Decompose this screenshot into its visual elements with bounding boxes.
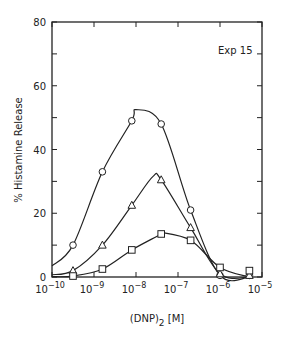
triangle-marker [187,224,195,231]
x-tick-label: 10−8 [122,281,147,295]
x-tick-label: 10−5 [248,281,273,295]
experiment-annotation: Exp 15 [218,45,253,56]
circle-marker [158,121,165,128]
plot-frame [52,22,262,277]
x-tick-label: 10−9 [80,281,105,295]
circle-marker [187,207,194,214]
square-marker [70,273,77,280]
histamine-release-chart: 020406080 10−1010−910−810−710−610−5 Exp … [0,0,288,344]
x-axis: 10−1010−910−810−710−610−5 [35,22,272,295]
circles-curve [52,110,249,281]
square-marker [99,266,106,273]
y-tick-label: 80 [33,17,46,28]
circle-marker [129,118,136,125]
y-tick-label: 60 [33,81,46,92]
x-axis-title: (DNP)2 [M] [130,313,184,328]
square-marker [129,247,136,254]
y-axis: 020406080 [33,17,262,283]
y-axis-title: % Histamine Release [13,97,24,203]
circle-marker [70,242,77,249]
plot-border [52,22,262,277]
square-marker [217,264,224,271]
data-markers [69,118,253,280]
circle-marker [99,169,106,176]
square-marker [246,267,253,274]
square-marker [187,237,194,244]
y-tick-label: 20 [33,208,46,219]
square-marker [158,231,165,238]
x-tick-label: 10−6 [206,281,231,295]
x-tick-label: 10−7 [164,281,189,295]
fitted-curves [52,110,249,281]
y-tick-label: 40 [33,145,46,156]
x-tick-label: 10−10 [35,281,65,295]
y-tick-label: 0 [40,272,46,283]
